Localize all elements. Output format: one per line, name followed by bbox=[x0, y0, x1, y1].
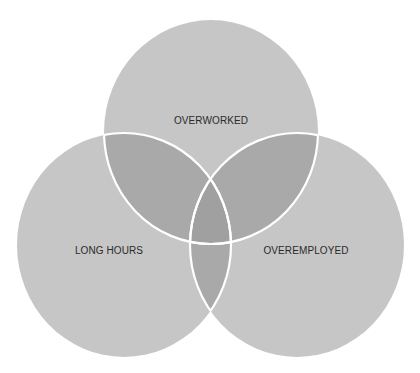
venn-diagram: OVERWORKED LONG HOURS OVEREMPLOYED bbox=[0, 0, 420, 373]
label-overworked: OVERWORKED bbox=[174, 115, 248, 126]
label-overemployed: OVEREMPLOYED bbox=[263, 245, 348, 256]
label-long-hours: LONG HOURS bbox=[75, 245, 143, 256]
